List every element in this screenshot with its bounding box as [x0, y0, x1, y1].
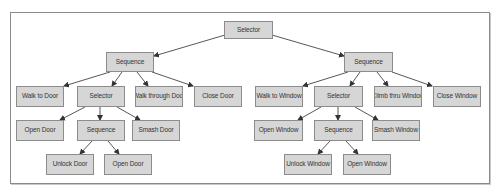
node-seq-window: Sequence	[344, 52, 393, 72]
node-open-door-1: Open Door	[16, 120, 64, 141]
node-unlock-door: Unlock Door	[46, 154, 94, 175]
node-open-window-1: Open Window	[254, 120, 303, 141]
node-smash-window: Smash Window	[372, 120, 420, 141]
edge-seq_window-to-sel_window	[350, 72, 360, 86]
edge-sel_window-to-open_window_1	[298, 107, 321, 120]
node-sel-window: Selector	[314, 86, 363, 107]
edge-seq_window_2-to-open_window_2	[346, 141, 358, 154]
node-walk-through-door: Walk through Door	[135, 86, 183, 107]
edge-seq_window_2-to-unlock_window	[318, 141, 330, 154]
node-open-window-2: Open Window	[343, 154, 391, 175]
edge-seq_door_2-to-open_door_2	[108, 141, 119, 154]
edge-sel_door-to-smash_door	[117, 107, 140, 120]
node-seq-door-2: Sequence	[77, 120, 125, 141]
node-walk-window: Walk to Window	[255, 86, 303, 107]
node-root: Selector	[224, 21, 273, 39]
node-seq-door: Sequence	[106, 52, 154, 72]
edge-seq_door-to-walk_door	[64, 72, 110, 86]
edge-seq_window-to-climb_window	[377, 72, 388, 86]
edge-seq_door-to-sel_door	[112, 72, 122, 86]
node-smash-door: Smash Door	[132, 120, 180, 141]
node-open-door-2: Open Door	[104, 154, 152, 175]
node-close-door: Close Door	[194, 86, 242, 107]
edge-seq_window-to-close_window	[392, 72, 432, 86]
edge-root-to-seq_door	[154, 35, 225, 56]
node-seq-window-2: Sequence	[314, 120, 363, 141]
edge-root-to-seq_window	[272, 35, 344, 56]
node-unlock-window: Unlock Window	[284, 154, 332, 175]
edge-seq_door_2-to-unlock_door	[80, 141, 92, 154]
edge-seq_window-to-walk_window	[303, 72, 348, 86]
edge-seq_door-to-close_door	[152, 72, 193, 86]
node-sel-door: Selector	[77, 86, 125, 107]
node-walk-door: Walk to Door	[16, 86, 64, 107]
node-close-window: Close Window	[433, 86, 481, 107]
edge-sel_door-to-open_door_1	[60, 107, 85, 120]
edge-seq_door-to-walk_through_door	[137, 72, 148, 86]
edge-sel_window-to-smash_window	[355, 107, 378, 120]
node-climb-window: Climb thru Window	[374, 86, 422, 107]
